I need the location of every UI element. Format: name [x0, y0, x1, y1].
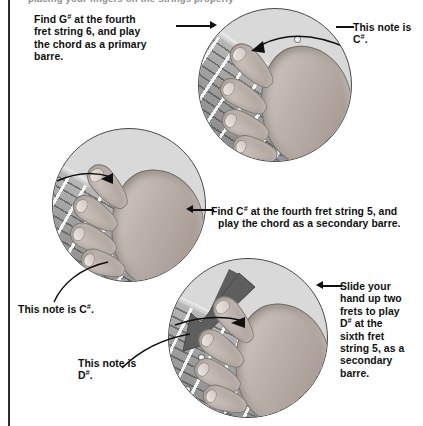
callout-line: frets to play [340, 306, 423, 318]
leader-slide-your-hand [316, 281, 342, 291]
leader-this-note-is-c-sharp-left [52, 258, 132, 308]
callout-line: play the chord as a secondary barre. [211, 218, 423, 230]
callout-line: D#. [78, 370, 168, 382]
callout-line: string 5, as a [340, 343, 423, 355]
note-pointer-curve [199, 9, 351, 161]
callout-line: barre. [340, 368, 423, 380]
callout-line: Find G# at the fourth [34, 14, 179, 26]
clipped-top-text: placing your fingers on the strings prop… [28, 0, 328, 5]
callout-line: Find C# at the fourth fret string 5, and [211, 206, 423, 218]
leader-find-c-sharp [184, 205, 214, 215]
callout-line: barre. [34, 51, 179, 63]
callout-line: fret string 6, and play [34, 26, 179, 38]
leader-this-note-is-d-sharp [120, 330, 200, 372]
callout-line: D# at the [340, 318, 423, 330]
callout-find-g-sharp: Find G# at the fourth fret string 6, and… [34, 14, 179, 66]
callout-line: sixth fret [340, 331, 423, 343]
callout-line: secondary [340, 355, 423, 367]
left-margin-rule [8, 0, 10, 426]
callout-line: the chord as a primary [34, 39, 179, 51]
photo-primary-barre [198, 8, 352, 162]
callout-find-c-sharp: Find C# at the fourth fret string 5, and… [211, 206, 423, 231]
leader-find-g-sharp [176, 21, 220, 31]
figure-page: placing your fingers on the strings prop… [0, 0, 423, 426]
leader-this-note-is-c-sharp-top [336, 24, 356, 30]
callout-line: hand up two [340, 293, 423, 305]
callout-line: C#. [353, 34, 423, 46]
callout-line: Slide your [340, 281, 423, 293]
callout-this-note-is-c-sharp-top: This note is C#. [353, 22, 423, 47]
callout-slide-your-hand: Slide your hand up two frets to play D# … [340, 281, 423, 380]
